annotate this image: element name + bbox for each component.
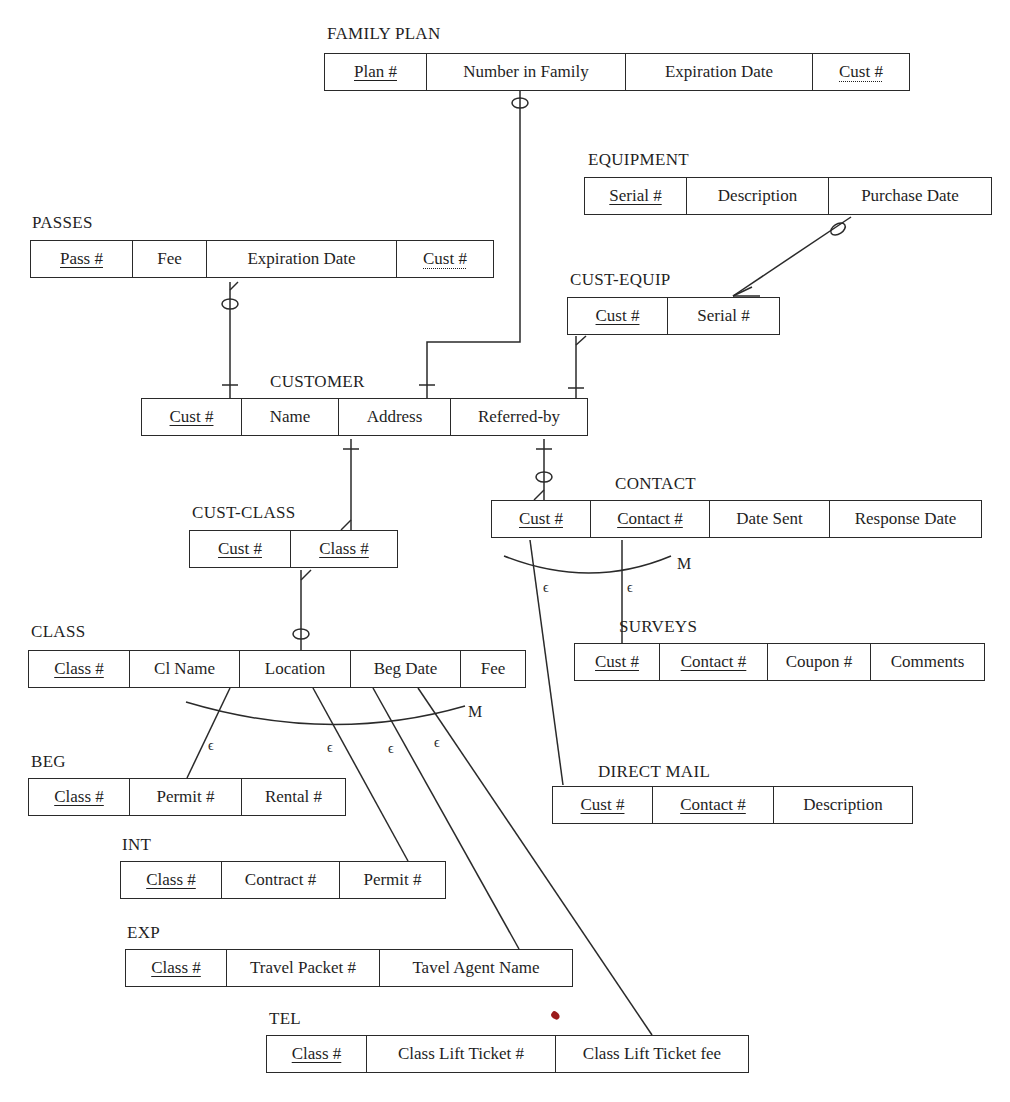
attr-beg-date: Beg Date [374, 659, 438, 679]
entity-title-family-plan: FAMILY PLAN [327, 24, 441, 44]
entity-title-customer: CUSTOMER [270, 372, 365, 392]
epsilon-icon: ϵ [434, 735, 440, 751]
rel-custequip-customer [568, 336, 586, 398]
attr-cust-number-fk: Cust # [423, 249, 467, 269]
entity-exp[interactable]: Class # Travel Packet # Tavel Agent Name [125, 949, 573, 987]
attr-date-sent: Date Sent [736, 509, 803, 529]
entity-title-passes: PASSES [32, 213, 93, 233]
attr-fee: Fee [481, 659, 506, 679]
attr-description: Description [803, 795, 882, 815]
attr-cust-number: Cust # [170, 407, 214, 427]
attr-permit-number: Permit # [363, 870, 421, 890]
attr-referred-by: Referred-by [478, 407, 560, 427]
attr-class-number: Class # [151, 958, 201, 978]
attr-class-number: Class # [54, 787, 104, 807]
attr-cust-number: Cust # [596, 306, 640, 326]
attr-name: Name [270, 407, 311, 427]
attr-plan-number: Plan # [354, 62, 397, 82]
attr-class-lift-ticket-fee: Class Lift Ticket fee [583, 1044, 721, 1064]
attr-class-number: Class # [292, 1044, 342, 1064]
attr-number-in-family: Number in Family [463, 62, 589, 82]
attr-class-number: Class # [146, 870, 196, 890]
epsilon-icon: ϵ [388, 741, 394, 757]
entity-int[interactable]: Class # Contract # Permit # [120, 861, 446, 899]
class-subtype-marker-m: M [468, 703, 482, 721]
entity-contact[interactable]: Cust # Contact # Date Sent Response Date [491, 500, 982, 538]
attr-pass-number: Pass # [60, 249, 103, 269]
entity-title-class: CLASS [31, 622, 85, 642]
entity-title-tel: TEL [269, 1009, 301, 1029]
attr-contract-number: Contract # [245, 870, 316, 890]
entity-title-equipment: EQUIPMENT [588, 150, 689, 170]
entity-title-cust-equip: CUST-EQUIP [570, 270, 671, 290]
attr-purchase-date: Purchase Date [861, 186, 959, 206]
attr-cust-number: Cust # [519, 509, 563, 529]
entity-cust-equip[interactable]: Cust # Serial # [567, 297, 780, 335]
attr-class-number: Class # [319, 539, 369, 559]
attr-coupon-number: Coupon # [786, 652, 853, 672]
entity-beg[interactable]: Class # Permit # Rental # [28, 778, 346, 816]
entity-passes[interactable]: Pass # Fee Expiration Date Cust # [30, 240, 494, 278]
epsilon-icon: ϵ [627, 580, 633, 596]
epsilon-icon: ϵ [208, 738, 214, 754]
attr-response-date: Response Date [855, 509, 957, 529]
attr-cust-number: Cust # [218, 539, 262, 559]
attr-cust-number-fk: Cust # [839, 62, 883, 82]
entity-title-direct-mail: DIRECT MAIL [598, 762, 710, 782]
entity-customer[interactable]: Cust # Name Address Referred-by [141, 398, 588, 436]
entity-direct-mail[interactable]: Cust # Contact # Description [552, 786, 913, 824]
entity-tel[interactable]: Class # Class Lift Ticket # Class Lift T… [266, 1035, 749, 1073]
attr-contact-number: Contact # [617, 509, 683, 529]
attr-description: Description [718, 186, 797, 206]
entity-cust-class[interactable]: Cust # Class # [189, 530, 398, 568]
attr-travel-agent-name: Tavel Agent Name [412, 958, 539, 978]
entity-title-int: INT [122, 835, 151, 855]
rel-passes-customer [222, 282, 238, 398]
attr-serial-number: Serial # [609, 186, 661, 206]
attr-travel-packet-number: Travel Packet # [250, 958, 356, 978]
rel-customer-contact [534, 439, 552, 500]
attr-comments: Comments [891, 652, 965, 672]
attr-fee: Fee [157, 249, 182, 269]
attr-permit-number: Permit # [156, 787, 214, 807]
attr-class-lift-ticket-number: Class Lift Ticket # [398, 1044, 524, 1064]
attr-class-number: Class # [54, 659, 104, 679]
attr-cust-number: Cust # [581, 795, 625, 815]
entity-equipment[interactable]: Serial # Description Purchase Date [584, 177, 992, 215]
attr-contact-number: Contact # [680, 795, 746, 815]
entity-title-exp: EXP [127, 923, 160, 943]
attr-cl-name: Cl Name [154, 659, 215, 679]
rel-equipment-custequip [733, 217, 851, 296]
entity-surveys[interactable]: Cust # Contact # Coupon # Comments [574, 643, 985, 681]
attr-contact-number: Contact # [681, 652, 747, 672]
attr-location: Location [265, 659, 325, 679]
rel-customer-custclass [341, 439, 359, 530]
attr-expiration-date: Expiration Date [247, 249, 355, 269]
attr-cust-number: Cust # [595, 652, 639, 672]
entity-class[interactable]: Class # Cl Name Location Beg Date Fee [28, 650, 526, 688]
rel-custclass-class [293, 570, 311, 650]
attr-address: Address [367, 407, 423, 427]
entity-family-plan[interactable]: Plan # Number in Family Expiration Date … [324, 53, 910, 91]
epsilon-icon: ϵ [327, 740, 333, 756]
entity-title-beg: BEG [31, 752, 66, 772]
entity-title-surveys: SURVEYS [619, 617, 697, 637]
attr-rental-number: Rental # [265, 787, 322, 807]
epsilon-icon: ϵ [543, 580, 549, 596]
entity-title-contact: CONTACT [615, 474, 696, 494]
entity-title-cust-class: CUST-CLASS [192, 503, 295, 523]
attr-expiration-date: Expiration Date [665, 62, 773, 82]
contact-subtype-marker-m: M [677, 555, 691, 573]
attr-serial-number: Serial # [697, 306, 749, 326]
